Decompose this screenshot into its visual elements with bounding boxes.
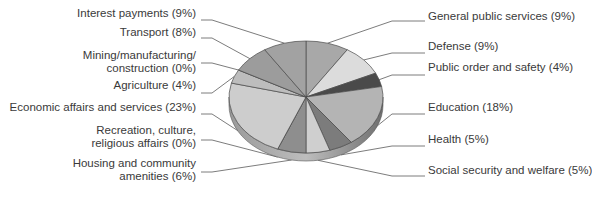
leader-line (318, 160, 425, 176)
leader-line (327, 21, 425, 43)
label-line: Agriculture (4%) (114, 79, 196, 92)
label-line: construction (0%) (83, 62, 196, 75)
label-left-2: Mining/manufacturing/construction (0%) (83, 49, 196, 75)
label-left-3: Agriculture (4%) (114, 79, 196, 92)
label-line: Recreation, culture, (91, 124, 196, 137)
leader-line (364, 53, 425, 60)
label-line: amenities (6%) (73, 170, 196, 183)
label-line: Housing and community (73, 157, 196, 170)
label-line: Interest payments (9%) (77, 7, 196, 20)
label-left-6: Housing and communityamenities (6%) (73, 157, 196, 183)
leader-line (201, 160, 292, 172)
pie-slices (229, 41, 383, 153)
label-line: religious affairs (0%) (91, 137, 196, 150)
leader-line (201, 20, 285, 43)
label-right-4: Health (5%) (428, 133, 489, 146)
label-right-0: General public services (9%) (428, 10, 575, 23)
label-right-5: Social security and welfare (5%) (428, 164, 592, 177)
label-right-3: Education (18%) (428, 101, 513, 114)
label-right-1: Defense (9%) (428, 40, 498, 53)
label-left-4: Economic affairs and services (23%) (10, 101, 196, 114)
label-line: Mining/manufacturing/ (83, 49, 196, 62)
label-line: Defense (9%) (428, 40, 498, 53)
leader-line (201, 63, 239, 70)
label-line: General public services (9%) (428, 10, 575, 23)
label-line: Public order and safety (4%) (428, 61, 573, 74)
label-line: Transport (8%) (120, 26, 196, 39)
leader-line (379, 75, 425, 80)
label-line: Social security and welfare (5%) (428, 164, 592, 177)
label-left-0: Interest payments (9%) (77, 7, 196, 20)
label-line: Education (18%) (428, 101, 513, 114)
label-line: Economic affairs and services (23%) (10, 101, 196, 114)
label-line: Health (5%) (428, 133, 489, 146)
label-left-1: Transport (8%) (120, 26, 196, 39)
label-right-2: Public order and safety (4%) (428, 61, 573, 74)
label-left-5: Recreation, culture,religious affairs (0… (91, 124, 196, 150)
leader-line (201, 38, 250, 59)
leader-line (378, 114, 425, 126)
figure-caption-cropped (36, 192, 336, 201)
